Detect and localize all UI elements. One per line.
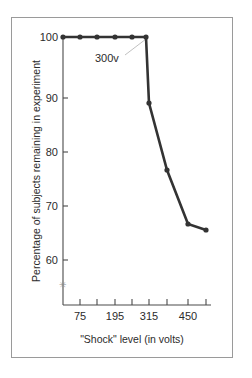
y-tick-label-80: 80	[46, 146, 58, 158]
data-point	[143, 34, 148, 39]
x-axis-title: "Shock" level (in volts)	[80, 333, 184, 345]
data-point	[112, 34, 117, 39]
x-tick-label-75: 75	[74, 310, 86, 322]
x-tick-label-450: 450	[179, 310, 197, 322]
data-point	[203, 227, 208, 232]
y-axis-title: Percentage of subjects remaining in expe…	[30, 60, 42, 282]
annotation-300v: 300v	[95, 52, 119, 64]
series-line-subjects-remaining	[63, 37, 206, 230]
chart-plot: 100 90 80 70 60 ✳ 75 195 315 450 "Shock"…	[0, 0, 252, 378]
y-tick-label-100: 100	[40, 31, 58, 43]
annotation-leader-line	[125, 39, 146, 55]
y-tick-label-60: 60	[46, 254, 58, 266]
data-point	[94, 34, 99, 39]
axis-break-icon: ✳	[59, 280, 67, 290]
data-point	[129, 34, 134, 39]
x-tick-label-195: 195	[106, 310, 124, 322]
data-point	[77, 34, 82, 39]
y-tick-label-90: 90	[46, 92, 58, 104]
figure-container: 100 90 80 70 60 ✳ 75 195 315 450 "Shock"…	[0, 0, 252, 378]
data-point	[146, 100, 151, 105]
x-tick-label-315: 315	[140, 310, 158, 322]
y-tick-label-70: 70	[46, 200, 58, 212]
data-point	[60, 34, 65, 39]
data-point	[185, 221, 190, 226]
data-point	[164, 167, 169, 172]
